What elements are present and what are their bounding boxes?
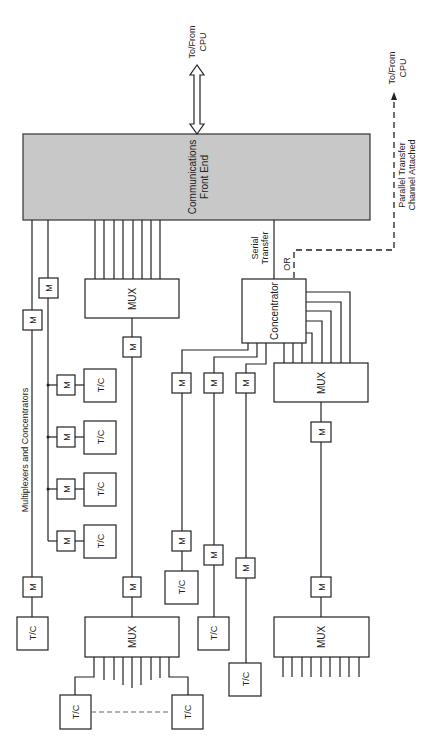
modem-label: M <box>62 433 72 441</box>
terminal-label: T/C <box>96 481 106 496</box>
modem-label: M <box>177 379 187 387</box>
terminal-label: T/C <box>177 579 187 594</box>
parallel-label-2: Channel Attached <box>407 139 417 210</box>
parallel-label-1: Parallel Transfer <box>397 142 407 208</box>
cpu-top-label-2: CPU <box>198 32 208 51</box>
modem-label: M <box>241 564 251 572</box>
terminal-label: T/C <box>96 429 106 444</box>
modem-label: M <box>28 583 38 591</box>
section-label: Multiplexers and Concentrators <box>20 387 30 512</box>
modem-label: M <box>62 381 72 389</box>
serial-label-1: Serial <box>250 236 260 259</box>
mux-label: MUX <box>316 626 327 649</box>
modem-label: M <box>62 485 72 493</box>
terminal-label: T/C <box>96 533 106 548</box>
terminal-label: T/C <box>241 671 251 686</box>
serial-label-2: Transfer <box>260 231 270 264</box>
modem-label: M <box>62 537 72 545</box>
modem-label: M <box>317 428 327 436</box>
terminal-label: T/C <box>183 704 193 719</box>
modem-label: M <box>241 379 251 387</box>
modem-label: M <box>177 537 187 545</box>
modem-label: M <box>128 583 138 591</box>
front-end-label-1: Communications <box>187 140 198 214</box>
modem-label: M <box>317 583 327 591</box>
communications-front-end: Communications Front End <box>23 134 370 220</box>
modem-label: M <box>44 284 54 292</box>
mux-label: MUX <box>127 288 138 311</box>
modem-label: M <box>209 379 219 387</box>
modem-label: M <box>28 316 38 324</box>
cpu-top-label-1: To/From <box>187 25 197 58</box>
terminal-label: T/C <box>209 625 219 640</box>
cpu-double-arrow: To/From CPU <box>187 25 208 134</box>
modem-label: M <box>128 343 138 351</box>
or-label: OR <box>282 257 292 271</box>
modem-label: M <box>209 551 219 559</box>
concentrator-label: Concentrator <box>269 281 280 339</box>
mux-label: MUX <box>127 626 138 649</box>
network-diagram: Communications Front End To/From CPU To/… <box>0 0 421 746</box>
mux-right: MUX M M MUX <box>274 363 369 677</box>
tc-group: M T/C M T/C M T/C M T/C <box>47 369 117 558</box>
terminal-label: T/C <box>71 704 81 719</box>
mux-label: MUX <box>316 372 327 395</box>
terminal-label: T/C <box>96 377 106 392</box>
terminal-label: T/C <box>28 625 38 640</box>
cpu-right-label-2: CPU <box>398 58 408 77</box>
cpu-right-label-1: To/From <box>387 51 397 84</box>
front-end-label-2: Front End <box>199 155 210 199</box>
